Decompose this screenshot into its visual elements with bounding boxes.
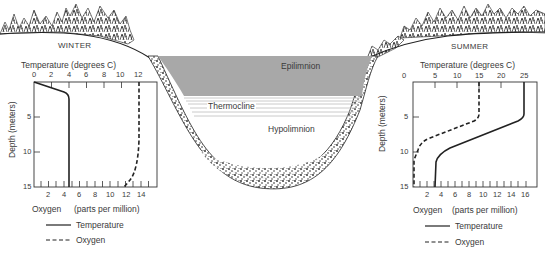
epilimnion-layer (158, 56, 372, 96)
epilimnion-label: Epilimnion (281, 62, 320, 71)
winter-title: WINTER (58, 42, 91, 50)
summer-oxygen-line (414, 82, 479, 187)
summer-legend-oxygen: Oxygen (455, 238, 484, 247)
summer-depth-tick: 10 (400, 148, 408, 156)
winter-legend-temperature: Temperature (76, 221, 124, 230)
hypolimnion-label: Hypolimnion (268, 125, 315, 134)
summer-oxygen-axis-unit: (parts per million) (452, 206, 518, 215)
thermocline-label: Thermocline (207, 102, 256, 111)
winter-depth-tick: 5 (27, 113, 31, 121)
winter-oxygen-line (124, 82, 139, 187)
winter-oxygen-axis-label: Oxygen (32, 205, 61, 214)
summer-depth-tick: 5 (404, 113, 408, 121)
winter-temperature-line (34, 82, 69, 187)
winter-depth-tick: 15 (23, 183, 31, 191)
summer-title: SUMMER (451, 43, 488, 51)
summer-depth-tick: 15 (400, 183, 408, 191)
winter-legend-oxygen: Oxygen (76, 236, 105, 245)
winter-depth-tick: 10 (23, 148, 31, 156)
winter-depth-axis-label: Depth (meters) (8, 101, 17, 158)
winter-chart (34, 82, 157, 240)
summer-oxygen-axis-label: Oxygen (413, 206, 442, 215)
winter-temperature-axis-label: Temperature (degrees C) (21, 61, 116, 70)
summer-temperature-axis-label: Temperature (degrees C) (420, 61, 515, 70)
tree-line-left-icon (0, 4, 134, 44)
summer-depth-axis-label: Depth (meters) (378, 95, 387, 152)
summer-legend-temperature: Temperature (455, 222, 503, 231)
summer-chart (413, 82, 537, 242)
winter-oxygen-axis-unit: (parts per million) (74, 205, 140, 214)
